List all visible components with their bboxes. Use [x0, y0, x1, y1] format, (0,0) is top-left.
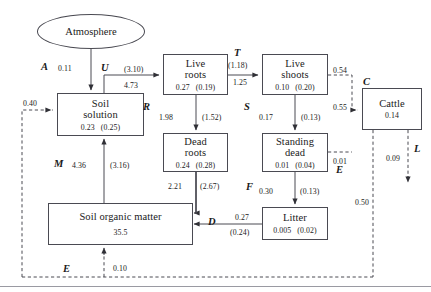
flux-C-upper-value: 0.54 [333, 66, 347, 75]
flux-A-value: 0.11 [58, 64, 72, 73]
node-standing-dead-label-1: Standing [276, 136, 314, 148]
flux-M-symbol: M [54, 158, 63, 169]
node-standing-dead-label-2: dead [285, 147, 305, 159]
node-live-roots-mean: 0.27 [176, 83, 190, 92]
node-atmosphere-label: Atmosphere [65, 26, 116, 37]
flux-R-sd: (1.52) [202, 113, 221, 122]
flux-S-sd: (0.13) [301, 113, 320, 122]
node-live-shoots-label-1: Live [285, 58, 305, 70]
node-live-shoots-sd: (0.20) [295, 83, 314, 92]
flux-E-cattle-value: 0.50 [355, 198, 369, 207]
node-dead-roots-label-1: Dead [184, 136, 207, 148]
flux-E-som-symbol: E [63, 263, 70, 274]
node-live-roots-label-2: roots [185, 69, 207, 81]
flux-C-symbol: C [363, 76, 370, 87]
flux-C-value: 0.55 [333, 103, 347, 112]
node-soil-solution-label-2: solution [83, 109, 118, 121]
node-litter-label-1: Litter [283, 212, 307, 224]
node-live-shoots-mean: 0.10 [275, 83, 289, 92]
flux-E-soil-solution-value: 0.40 [23, 99, 37, 108]
node-soil-solution-values: 0.23(0.25) [81, 123, 120, 132]
node-standing-dead-sd: (0.04) [295, 161, 314, 170]
flux-F-sd: (0.13) [300, 187, 319, 196]
node-soil-organic-matter-values: 35.5 [113, 228, 127, 237]
flux-R-symbol: R [143, 101, 150, 112]
node-soil-solution-sd: (0.25) [101, 123, 120, 132]
connector-E-left-riser [22, 110, 53, 277]
node-live-roots[interactable]: Live roots 0.27(0.19) [163, 54, 228, 95]
node-soil-solution-label-1: Soil [92, 98, 109, 110]
node-dead-roots-label-2: roots [185, 147, 207, 159]
node-live-shoots-label-2: shoots [281, 69, 308, 81]
node-dead-roots-mean: 0.24 [176, 161, 190, 170]
node-standing-dead-values: 0.01(0.04) [275, 161, 314, 170]
flux-E-cattle-symbol: E [336, 164, 343, 175]
footer-divider [0, 286, 431, 287]
flux-U-symbol: U [101, 62, 109, 73]
flux-T-symbol: T [234, 47, 241, 58]
flux-M-sd: (3.16) [110, 161, 129, 170]
node-standing-dead[interactable]: Standing dead 0.01(0.04) [262, 133, 328, 172]
flux-D-symbol: D [208, 216, 216, 227]
flux-R-value: 1.98 [159, 113, 173, 122]
node-litter[interactable]: Litter 0.005(0.02) [262, 207, 328, 240]
node-live-shoots[interactable]: Live shoots 0.10(0.20) [262, 54, 328, 95]
node-litter-mean: 0.005 [273, 226, 291, 235]
node-soil-organic-matter-mean: 35.5 [113, 228, 127, 237]
node-litter-sd: (0.02) [297, 226, 316, 235]
node-soil-solution-mean: 0.23 [81, 123, 95, 132]
flux-D-value: 0.27 [235, 213, 249, 222]
flux-F-symbol: F [246, 181, 253, 192]
node-standing-dead-mean: 0.01 [275, 161, 289, 170]
flux-M-value: 4.36 [72, 161, 86, 170]
flux-T-sd: (1.18) [228, 61, 247, 70]
node-atmosphere[interactable]: Atmosphere [37, 14, 145, 49]
node-dead-roots-sd: (0.28) [196, 161, 215, 170]
node-cattle-mean: 0.14 [385, 111, 399, 120]
flux-S-value: 0.17 [259, 113, 273, 122]
connector-deadroots-som [196, 172, 197, 213]
node-live-roots-sd: (0.19) [196, 83, 215, 92]
flux-U-sd: (3.10) [124, 65, 143, 74]
node-litter-values: 0.005(0.02) [273, 226, 316, 235]
node-soil-solution[interactable]: Soil solution 0.23(0.25) [57, 93, 144, 136]
diagram-canvas: Atmosphere Soil solution 0.23(0.25) Live… [0, 0, 431, 292]
flux-L-value: 0.09 [386, 154, 400, 163]
flux-F-value: 0.30 [259, 187, 273, 196]
flux-L-symbol: L [414, 143, 421, 154]
node-cattle-label-1: Cattle [379, 98, 405, 110]
node-live-roots-values: 0.27(0.19) [176, 83, 215, 92]
flux-D-sd: (0.24) [230, 228, 249, 237]
node-live-roots-label-1: Live [186, 58, 206, 70]
flux-deadroots-som-sd: (2.67) [200, 182, 219, 191]
node-dead-roots[interactable]: Dead roots 0.24(0.28) [163, 133, 228, 172]
node-dead-roots-values: 0.24(0.28) [176, 161, 215, 170]
flux-S-symbol: S [244, 101, 250, 112]
flux-E-som-value: 0.10 [113, 264, 127, 273]
node-cattle-values: 0.14 [385, 111, 399, 120]
flux-U-value: 4.73 [124, 81, 138, 90]
node-cattle[interactable]: Cattle 0.14 [362, 88, 422, 130]
node-soil-organic-matter-label-1: Soil organic matter [79, 211, 161, 223]
node-live-shoots-values: 0.10(0.20) [275, 83, 314, 92]
flux-A-symbol: A [41, 61, 48, 72]
flux-T-value: 1.25 [233, 78, 247, 87]
node-soil-organic-matter[interactable]: Soil organic matter 35.5 [48, 203, 193, 245]
flux-deadroots-som-value: 2.21 [168, 182, 182, 191]
